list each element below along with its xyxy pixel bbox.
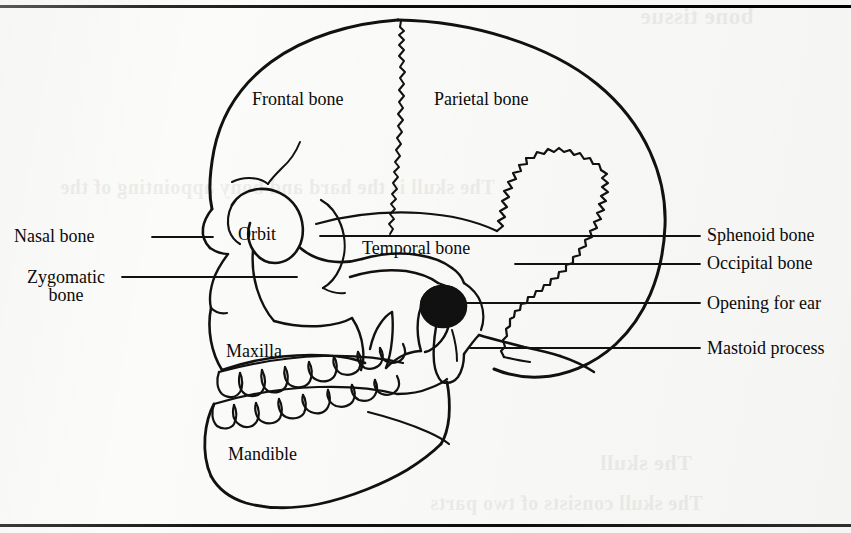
zygomatic-arch-lower [350, 270, 438, 283]
label-parietal-bone: Parietal bone [434, 91, 528, 108]
mandible-body-upper [397, 379, 447, 394]
styloid-process [452, 330, 457, 361]
nasal-bridge-inner [210, 248, 228, 254]
top-horizontal-rule [0, 5, 851, 8]
maxilla-anterior-border [210, 308, 223, 370]
label-frontal-bone: Frontal bone [252, 91, 344, 108]
sphenoid-wing-lower-edge [323, 288, 345, 293]
mastoid-process-anterior [434, 327, 442, 382]
maxilla-zygomatic-lower [274, 318, 352, 326]
skull-diagram-figure: bone tissue The skull is the hard and bo… [0, 0, 851, 533]
sphenoid-greater-wing [321, 200, 345, 288]
label-sphenoid-bone: Sphenoid bone [707, 227, 815, 244]
label-mastoid-process: Mastoid process [707, 339, 827, 357]
zygomatic-arch-posterior-root [452, 268, 464, 283]
label-opening-for-ear: Opening for ear [707, 294, 827, 312]
temporal-line-ridge [268, 142, 300, 184]
nasal-aperture-edge [210, 254, 228, 308]
mandible-oblique-line [368, 412, 449, 444]
label-temporal-bone: Temporal bone [362, 240, 470, 257]
label-mandible: Mandible [228, 446, 297, 463]
occipital-inferior-border [479, 335, 560, 356]
mastoid-process-tip [442, 354, 464, 383]
parietal-temporal-jagged-suture [497, 148, 601, 231]
nasal-bone [203, 209, 212, 248]
label-occipital-bone: Occipital bone [707, 255, 812, 272]
bottom-horizontal-rule [0, 524, 851, 527]
frontal-bone-anterior-slope [210, 20, 398, 209]
label-orbit: Orbit [238, 226, 276, 243]
zygomatic-bone [299, 247, 362, 262]
occipital-condyle-region [504, 357, 530, 362]
nasal-spine [211, 308, 227, 313]
mastoid-posterior-edge [464, 335, 479, 354]
mandible-ramus-posterior [441, 382, 449, 444]
label-maxilla: Maxilla [226, 343, 282, 360]
supraorbital-ridge-line [232, 178, 268, 184]
coronoid-process [370, 312, 392, 349]
label-nasal-bone: Nasal bone [14, 228, 94, 245]
label-zygomatic-bone: Zygomatic bone [14, 268, 118, 304]
coronal-suture [389, 21, 405, 234]
